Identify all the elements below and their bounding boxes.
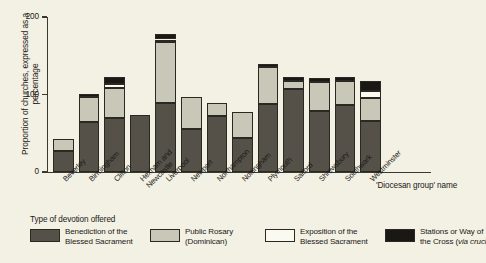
y-axis-title: Proportion of churches, expressed as a p… — [20, 4, 40, 164]
y-tick-200 — [42, 16, 47, 17]
bar-segment — [53, 139, 74, 151]
legend-title: Type of devotion offered — [30, 215, 442, 224]
y-tick-100 — [42, 94, 47, 95]
legend-item[interactable]: Exposition of theBlessed Sacrament — [265, 227, 368, 246]
bar-segment — [283, 77, 304, 81]
legend-item[interactable]: Public Rosary(Dominican) — [150, 227, 233, 246]
bar-segment — [360, 98, 381, 120]
bar-segment — [232, 112, 253, 138]
x-axis-title: 'Diocesan group' name — [376, 181, 457, 190]
legend-swatch — [30, 229, 60, 242]
bar-segment — [79, 94, 100, 97]
bar-segment — [207, 103, 228, 116]
bar-segment — [155, 40, 176, 42]
bar-segment — [104, 88, 125, 117]
legend-label: Benediction of theBlessed Sacrament — [65, 227, 133, 246]
bar-segment — [258, 64, 279, 68]
bar-segment — [155, 42, 176, 103]
bar-segment — [309, 78, 330, 82]
legend: Type of devotion offered Benediction of … — [30, 215, 442, 259]
bar-segment — [79, 97, 100, 123]
plot-area — [48, 17, 431, 172]
legend-item[interactable]: Stations or Way ofthe Cross (via cruci — [385, 227, 486, 246]
bar-segment — [181, 97, 202, 129]
bar-segment — [258, 67, 279, 103]
legend-swatch — [265, 229, 295, 242]
bar-segment — [335, 81, 356, 104]
legend-label: Public Rosary(Dominican) — [185, 227, 233, 246]
bar-segment — [360, 91, 381, 98]
bar-segment — [309, 111, 330, 172]
legend-swatch — [150, 229, 180, 242]
legend-label: Exposition of theBlessed Sacrament — [300, 227, 368, 246]
bar-segment — [104, 84, 125, 89]
bar-segment — [104, 77, 125, 83]
bar-segment — [130, 115, 151, 172]
legend-label: Stations or Way ofthe Cross (via cruci — [420, 227, 486, 246]
y-tick-label-0: 0 — [9, 167, 39, 176]
bar-segment — [335, 77, 356, 81]
bar-segment — [155, 34, 176, 39]
y-tick-0 — [42, 171, 47, 172]
legend-item[interactable]: Benediction of theBlessed Sacrament — [30, 227, 133, 246]
bar-segment — [283, 81, 304, 89]
legend-swatch — [385, 229, 415, 242]
bar-segment — [309, 82, 330, 111]
legend-items: Benediction of theBlessed SacramentPubli… — [30, 227, 442, 259]
bar-segment — [360, 81, 381, 92]
